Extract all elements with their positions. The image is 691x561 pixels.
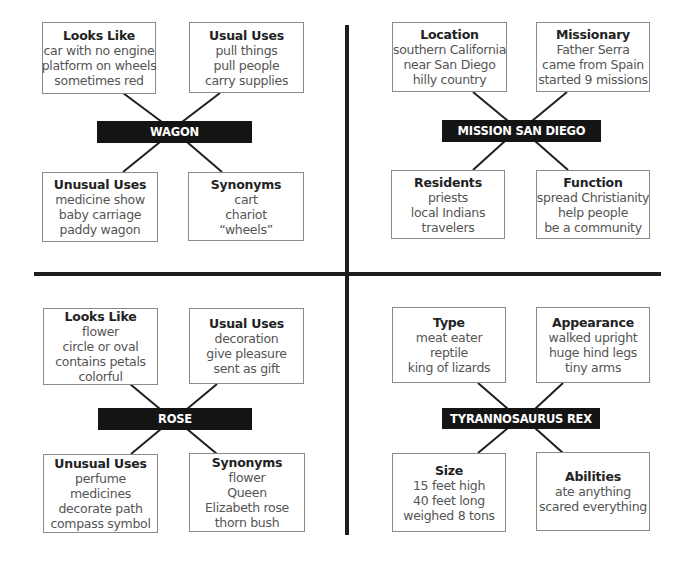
- box-unusual-uses: Unusual Uses medicine show baby carriage…: [42, 172, 158, 242]
- box-line: help people: [558, 205, 628, 220]
- box-appearance: Appearance walked upright huge hind legs…: [536, 307, 650, 383]
- box-line: chariot: [225, 207, 267, 222]
- box-looks-like: Looks Like flower circle or oval contain…: [43, 308, 158, 385]
- box-title: Looks Like: [63, 28, 135, 43]
- center-label-tyrannosaurus-rex: TYRANNOSAURUS REX: [442, 408, 600, 429]
- box-line: car with no engine: [44, 43, 155, 58]
- box-title: Synonyms: [211, 177, 282, 192]
- box-line: circle or oval: [63, 339, 139, 354]
- box-line: Elizabeth rose: [205, 500, 289, 515]
- box-line: cart: [234, 192, 257, 207]
- box-line: travelers: [422, 220, 475, 235]
- box-line: spread Christianity: [537, 190, 649, 205]
- center-label-mission-san-diego: MISSION SAN DIEGO: [442, 120, 601, 142]
- center-label-rose: ROSE: [98, 408, 252, 430]
- box-title: Abilities: [565, 469, 621, 484]
- box-synonyms: Synonyms cart chariot “wheels”: [188, 172, 304, 241]
- box-line: pull things: [215, 43, 277, 58]
- box-line: near San Diego: [403, 57, 495, 72]
- box-line: hilly country: [413, 72, 487, 87]
- box-line: decorate path: [58, 501, 142, 516]
- box-line: sometimes red: [54, 73, 143, 88]
- box-looks-like: Looks Like car with no engine platform o…: [42, 22, 156, 94]
- box-line: be a community: [544, 220, 642, 235]
- box-size: Size 15 feet high 40 feet long weighed 8…: [392, 453, 506, 532]
- box-title: Function: [563, 175, 622, 190]
- box-line: thorn bush: [215, 515, 280, 530]
- box-line: medicine show: [55, 192, 145, 207]
- box-line: priests: [428, 190, 468, 205]
- box-line: ate anything: [555, 484, 631, 499]
- box-line: Queen: [227, 485, 267, 500]
- box-line: platform on wheels: [42, 58, 157, 73]
- box-line: contains petals: [55, 354, 146, 369]
- box-line: weighed 8 tons: [403, 508, 495, 523]
- box-title: Usual Uses: [209, 28, 284, 43]
- box-line: sent as gift: [213, 361, 279, 376]
- box-line: started 9 missions: [538, 72, 647, 87]
- box-line: local Indians: [411, 205, 485, 220]
- box-line: compass symbol: [50, 516, 150, 531]
- box-line: carry supplies: [205, 73, 288, 88]
- box-line: colorful: [78, 369, 122, 384]
- box-title: Usual Uses: [209, 316, 284, 331]
- box-title: Unusual Uses: [54, 177, 146, 192]
- box-line: pull people: [214, 58, 280, 73]
- box-usual-uses: Usual Uses pull things pull people carry…: [189, 22, 304, 93]
- box-line: paddy wagon: [60, 222, 141, 237]
- box-line: baby carriage: [59, 207, 141, 222]
- box-title: Size: [435, 463, 463, 478]
- box-line: king of lizards: [408, 360, 491, 375]
- box-line: 40 feet long: [413, 493, 485, 508]
- box-title: Location: [420, 27, 479, 42]
- box-line: medicines: [70, 486, 131, 501]
- box-location: Location southern California near San Di…: [392, 22, 507, 92]
- box-title: Looks Like: [65, 309, 137, 324]
- box-line: reptile: [430, 345, 468, 360]
- box-residents: Residents priests local Indians traveler…: [391, 170, 505, 239]
- box-line: tiny arms: [565, 360, 621, 375]
- box-type: Type meat eater reptile king of lizards: [392, 307, 506, 383]
- box-synonyms: Synonyms flower Queen Elizabeth rose tho…: [189, 453, 305, 532]
- box-unusual-uses: Unusual Uses perfume medicines decorate …: [43, 454, 158, 533]
- center-label-wagon: WAGON: [97, 121, 252, 143]
- box-line: perfume: [75, 471, 126, 486]
- box-line: Father Serra: [556, 42, 629, 57]
- box-line: scared everything: [539, 499, 647, 514]
- box-missionary: Missionary Father Serra came from Spain …: [536, 22, 650, 92]
- box-title: Residents: [414, 175, 482, 190]
- box-line: walked upright: [549, 330, 638, 345]
- box-abilities: Abilities ate anything scared everything: [536, 452, 650, 531]
- box-title: Type: [433, 315, 465, 330]
- box-line: meat eater: [416, 330, 482, 345]
- box-line: huge hind legs: [549, 345, 637, 360]
- box-line: flower: [229, 470, 266, 485]
- box-line: decoration: [215, 331, 279, 346]
- box-line: 15 feet high: [413, 478, 485, 493]
- box-line: came from Spain: [542, 57, 644, 72]
- box-usual-uses: Usual Uses decoration give pleasure sent…: [189, 308, 304, 384]
- box-line: flower: [82, 324, 119, 339]
- box-title: Missionary: [556, 27, 630, 42]
- box-title: Synonyms: [212, 455, 283, 470]
- box-title: Appearance: [552, 315, 634, 330]
- box-line: “wheels”: [219, 222, 273, 237]
- box-function: Function spread Christianity help people…: [536, 170, 650, 239]
- box-line: give pleasure: [206, 346, 286, 361]
- box-line: southern California: [393, 42, 506, 57]
- box-title: Unusual Uses: [54, 456, 146, 471]
